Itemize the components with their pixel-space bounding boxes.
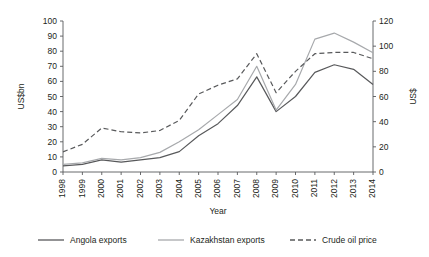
x-axis-tick-label: 1998 (57, 179, 67, 198)
y-axis-right-tick-label: 40 (379, 117, 389, 127)
x-axis-tick-label: 2001 (115, 179, 125, 198)
legend-label-2: Crude oil price (322, 235, 377, 245)
series-line-1 (63, 33, 373, 164)
x-axis-tick-label: 2009 (270, 179, 280, 198)
y-axis-left-tick-label: 30 (48, 122, 58, 132)
legend-label-1: Kazakhstan exports (190, 235, 265, 245)
y-axis-right-tick-label: 80 (379, 66, 389, 76)
x-axis-tick-label: 2011 (309, 179, 319, 198)
y-axis-right: 020406080100120 (373, 16, 393, 177)
y-axis-left-tick-label: 10 (48, 152, 58, 162)
chart-figure: 0102030405060708090100020406080100120199… (0, 0, 429, 257)
x-axis-tick-label: 2004 (174, 179, 184, 198)
y-axis-left-tick-label: 90 (48, 31, 58, 41)
x-axis-tick-label: 2014 (367, 179, 377, 198)
x-axis-tick-label: 2010 (290, 179, 300, 198)
y-axis-right-tick-label: 0 (379, 167, 384, 177)
x-axis-tick-label: 2000 (96, 179, 106, 198)
y-axis-left-tick-label: 60 (48, 76, 58, 86)
legend-label-0: Angola exports (70, 235, 127, 245)
y-axis-left: 0102030405060708090100 (43, 16, 63, 177)
series-group (63, 33, 373, 166)
x-axis-tick-label: 2006 (212, 179, 222, 198)
y-axis-left-title: US$bn (16, 83, 26, 109)
line-chart: 0102030405060708090100020406080100120199… (0, 0, 429, 257)
x-axis-tick-label: 2007 (232, 179, 242, 198)
x-axis-tick-label: 2003 (154, 179, 164, 198)
y-axis-left-tick-label: 100 (43, 16, 57, 26)
y-axis-left-tick-label: 80 (48, 46, 58, 56)
x-axis-title: Year (209, 206, 226, 216)
y-axis-left-tick-label: 40 (48, 107, 58, 117)
x-axis-tick-label: 2008 (251, 179, 261, 198)
y-axis-right-tick-label: 100 (379, 41, 393, 51)
chart-legend: Angola exportsKazakhstan exportsCrude oi… (38, 235, 377, 245)
y-axis-left-tick-label: 50 (48, 92, 58, 102)
x-axis-tick-label: 1999 (77, 179, 87, 198)
y-axis-right-title: US$ (408, 88, 418, 105)
y-axis-left-tick-label: 70 (48, 61, 58, 71)
y-axis-left-tick-label: 20 (48, 137, 58, 147)
x-axis-tick-label: 2012 (329, 179, 339, 198)
x-axis-tick-label: 2002 (135, 179, 145, 198)
y-axis-right-tick-label: 120 (379, 16, 393, 26)
y-axis-right-tick-label: 20 (379, 142, 389, 152)
y-axis-left-tick-label: 0 (52, 167, 57, 177)
x-axis-tick-label: 2005 (193, 179, 203, 198)
y-axis-right-tick-label: 60 (379, 92, 389, 102)
x-axis-tick-label: 2013 (348, 179, 358, 198)
x-axis: 1998199920002001200220032004200520062007… (57, 172, 377, 198)
